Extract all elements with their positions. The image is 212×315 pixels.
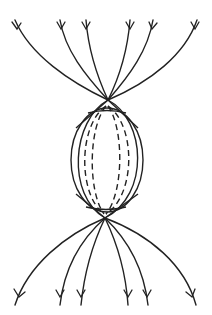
top-field-lines bbox=[12, 20, 199, 100]
sphere-outline bbox=[71, 108, 143, 212]
top-field-line bbox=[108, 20, 197, 100]
sphere bbox=[71, 100, 143, 218]
diagram-svg bbox=[0, 0, 212, 315]
arrow-down-icon bbox=[77, 290, 85, 297]
meridian-dashed bbox=[106, 106, 120, 214]
field-lines-diagram bbox=[0, 0, 212, 315]
top-arrowheads bbox=[12, 22, 199, 29]
meridian-solid bbox=[105, 100, 138, 218]
arrow-down-icon bbox=[143, 290, 151, 297]
top-field-line bbox=[15, 20, 108, 100]
meridian-dashed bbox=[106, 106, 129, 214]
arrow-down-icon bbox=[56, 290, 64, 297]
arrow-down-icon bbox=[124, 290, 132, 297]
meridian-dashed bbox=[92, 106, 106, 214]
bottom-field-lines bbox=[14, 218, 196, 305]
top-field-line bbox=[108, 20, 153, 100]
bottom-arrowheads bbox=[14, 289, 195, 297]
